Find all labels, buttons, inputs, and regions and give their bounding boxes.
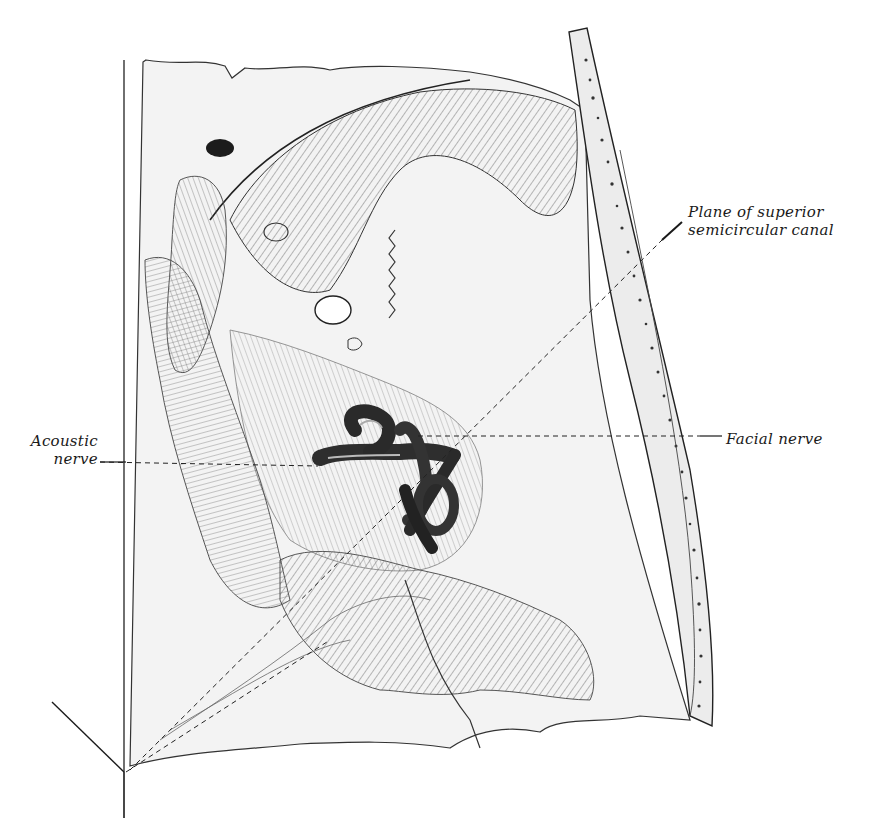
temporal-bone-illustration — [0, 0, 889, 828]
foramen — [206, 139, 234, 157]
label-acoustic-nerve: Acoustic nerve — [22, 432, 98, 468]
label-acoustic-line1: Acoustic — [22, 432, 98, 450]
label-plane-line2: semicircular canal — [688, 221, 834, 239]
label-plane-superior-semicircular-canal: Plane of superior semicircular canal — [688, 203, 834, 239]
label-plane-line1: Plane of superior — [688, 203, 824, 221]
label-facial-line1: Facial nerve — [726, 430, 823, 448]
label-acoustic-line2: nerve — [22, 450, 98, 468]
label-facial-nerve: Facial nerve — [726, 430, 823, 448]
